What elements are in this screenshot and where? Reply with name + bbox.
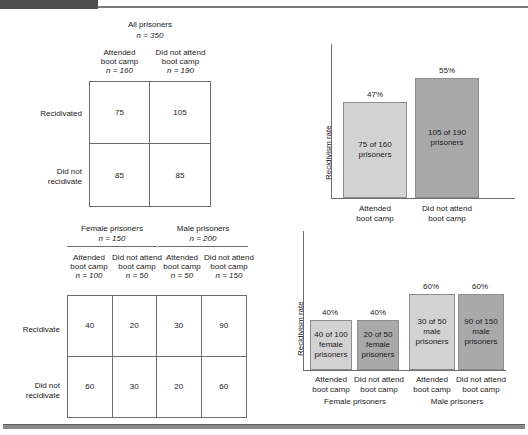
all-prisoners-title: All prisoners — [90, 20, 210, 30]
figure-page: All prisoners n = 350 Attended boot camp… — [0, 0, 528, 435]
table-cell: 75 — [90, 82, 150, 144]
chart2-bar-female-attended: 40 of 100 female prisoners — [310, 320, 352, 370]
male-group-title: Male prisoners — [158, 224, 248, 234]
chart2-value-label: 60% — [457, 282, 503, 291]
chart2-x-tick-label: Attended boot camp — [304, 375, 358, 394]
chart2-bar-male-attended: 30 of 50 male prisoners — [409, 294, 455, 370]
sex-row-header-recidivate: Recidivate — [0, 325, 60, 335]
chart2-bar-annotation: 30 of 50 male prisoners — [416, 317, 449, 347]
table-cell: 85 — [90, 144, 150, 206]
chart2-x-tick-label: Did not attend boot camp — [454, 375, 508, 394]
chart1-x-axis — [331, 198, 515, 199]
all-prisoners-table: 75 105 85 85 — [89, 81, 211, 207]
table-cell: 60 — [202, 357, 247, 418]
chart2-y-axis-label: Recidivism rate — [296, 301, 305, 356]
chart2-group-label-male: Male prisoners — [408, 397, 506, 407]
chart2-bar-annotation: 20 of 50 female prisoners — [362, 330, 395, 360]
female-group-title: Female prisoners — [67, 224, 157, 234]
female-group-rule — [67, 246, 157, 247]
page-bottom-rule — [3, 424, 525, 429]
all-prisoners-subtitle: n = 350 — [90, 31, 210, 41]
aggregate-recidivism-chart: Recidivism rate 47% 75 of 160 prisoners … — [300, 30, 528, 220]
chart2-x-tick-label: Attended boot camp — [405, 375, 459, 394]
chart1-bar-annotation: 75 of 160 prisoners — [358, 140, 391, 160]
chart2-x-axis — [303, 370, 506, 371]
table-cell: 30 — [157, 296, 202, 357]
table-cell: 105 — [150, 82, 210, 144]
table-cell: 60 — [68, 357, 113, 418]
table-cell: 90 — [202, 296, 247, 357]
chart2-bar-annotation: 40 of 100 female prisoners — [314, 330, 347, 360]
chart2-value-label: 40% — [356, 308, 400, 317]
chart2-x-tick-label: Did not attend boot camp — [352, 375, 406, 394]
all-col-header-attended-n: n = 160 — [89, 66, 150, 76]
chart1-y-axis-label: Recidivism rate — [324, 125, 333, 180]
recidivism-by-sex-chart: Recidivism rate 40% 40 of 100 female pri… — [280, 228, 528, 408]
chart1-x-tick-label: Did not attend boot camp — [412, 204, 482, 223]
table-cell: 20 — [157, 357, 202, 418]
chart2-bar-female-not-attended: 20 of 50 female prisoners — [357, 320, 399, 370]
table-cell: 30 — [113, 357, 158, 418]
sex-col-header-1-n: n = 100 — [64, 271, 114, 281]
chart1-bar-annotation: 105 of 190 prisoners — [428, 128, 466, 148]
chart2-bar-male-not-attended: 90 of 150 male prisoners — [458, 294, 504, 370]
all-row-header-not-recidivate: Did not recidivate — [10, 167, 82, 186]
sex-col-header-4-n: n = 150 — [201, 271, 257, 281]
all-col-header-notattended-n: n = 190 — [150, 66, 211, 76]
chart2-value-label: 60% — [408, 282, 454, 291]
chart1-bar-attended: 75 of 160 prisoners — [343, 102, 407, 198]
table-cell: 40 — [68, 296, 113, 357]
sex-row-header-not-recidivate: Did not recidivate — [0, 381, 60, 400]
table-cell: 85 — [150, 144, 210, 206]
female-group-subtitle: n = 150 — [67, 234, 157, 244]
male-group-subtitle: n = 200 — [158, 234, 248, 244]
male-group-rule — [158, 246, 248, 247]
table-cell: 20 — [113, 296, 158, 357]
all-row-header-recidivated: Recidivated — [10, 109, 82, 119]
chart1-x-tick-label: Attended boot camp — [340, 204, 410, 223]
sex-col-header-3-n: n = 50 — [157, 271, 207, 281]
chart2-group-label-female: Female prisoners — [306, 397, 404, 407]
chart1-value-label: 47% — [340, 90, 410, 99]
chart1-bar-not-attended: 105 of 190 prisoners — [415, 78, 479, 198]
chart2-bar-annotation: 90 of 150 male prisoners — [464, 317, 497, 347]
page-corner-tab — [0, 0, 98, 9]
chart1-value-label: 55% — [412, 66, 482, 75]
chart2-value-label: 40% — [308, 308, 352, 317]
by-sex-table: 40 20 30 90 60 30 20 60 — [67, 295, 247, 418]
